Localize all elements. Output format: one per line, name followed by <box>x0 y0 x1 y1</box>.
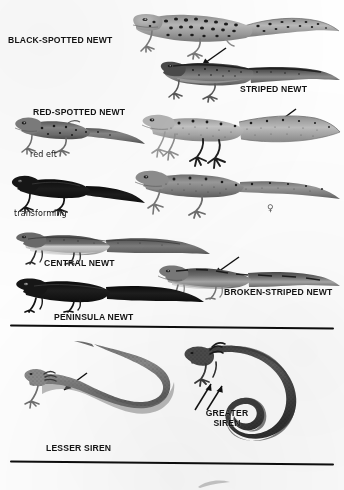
label-black-spotted-newt: BLACK-SPOTTED NEWT <box>8 35 112 45</box>
figure-next-plate-sliver <box>196 477 236 490</box>
figure-red-eft <box>8 112 148 160</box>
section-divider-sirens <box>10 461 334 466</box>
label-striped-newt: STRIPED NEWT <box>240 84 307 94</box>
figure-red-spotted-newt-adult <box>135 110 343 172</box>
label-broken-striped-newt: BROKEN-STRIPED NEWT <box>224 287 332 297</box>
label-lesser-siren: LESSER SIREN <box>46 443 111 453</box>
figure-red-spotted-newt-female <box>128 166 343 218</box>
figure-central-newt <box>10 232 220 264</box>
label-greater-siren: GREATER SIREN <box>196 408 258 428</box>
figure-lesser-siren <box>12 340 197 445</box>
field-guide-plate: BLACK-SPOTTED NEWT <box>0 0 344 490</box>
label-peninsula-newt: PENINSULA NEWT <box>54 312 134 322</box>
label-transforming: transforming <box>14 209 67 218</box>
label-red-eft: red eft <box>30 150 57 159</box>
female-symbol: ♀ <box>267 203 274 213</box>
figure-black-spotted-newt <box>118 4 343 66</box>
figure-striped-newt <box>153 58 343 104</box>
label-central-newt: CENTRAL NEWT <box>44 258 115 268</box>
label-red-spotted-newt: RED-SPOTTED NEWT <box>33 107 125 117</box>
figure-peninsula-newt <box>10 278 210 312</box>
label-greater-siren-line2: SIREN <box>213 418 240 428</box>
label-greater-siren-line1: GREATER <box>206 408 249 418</box>
section-divider-newts <box>10 324 334 330</box>
